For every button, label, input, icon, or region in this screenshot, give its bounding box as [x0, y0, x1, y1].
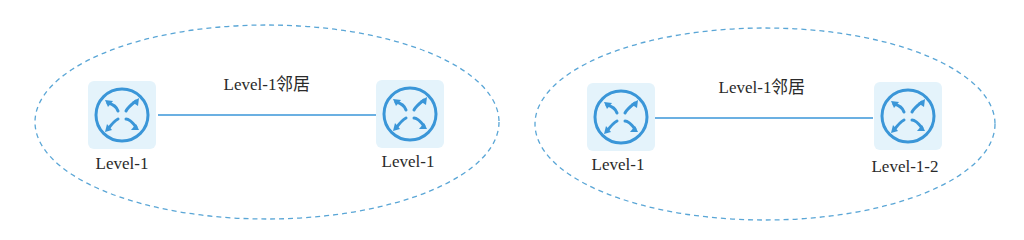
router-label-right-2: Level-1-2	[871, 157, 938, 177]
router-label-left-2: Level-1	[382, 152, 435, 172]
neighbor-label-right: Level-1邻居	[719, 73, 806, 98]
router-icon	[376, 80, 444, 148]
neighbor-label-left: Level-1邻居	[224, 70, 311, 95]
router-right-1[interactable]	[587, 83, 655, 151]
router-left-2[interactable]	[376, 80, 444, 148]
router-label-left-1: Level-1	[96, 154, 149, 174]
router-icon	[587, 83, 655, 151]
router-label-right-1: Level-1	[592, 155, 645, 175]
router-icon	[88, 81, 156, 149]
router-left-1[interactable]	[88, 81, 156, 149]
router-right-2[interactable]	[874, 82, 942, 150]
router-icon	[874, 82, 942, 150]
